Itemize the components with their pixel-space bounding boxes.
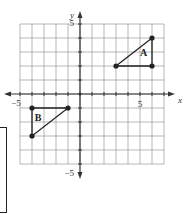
y-tick-label: −5 (64, 168, 74, 178)
vertex-point (65, 105, 70, 110)
vertex-point (149, 63, 154, 68)
x-axis-arrow-left-icon (4, 92, 11, 97)
partial-frame-border (0, 127, 7, 213)
axes (4, 11, 175, 179)
triangle-label-b: B (35, 112, 42, 123)
y-tick-label: 5 (70, 18, 75, 28)
y-axis-arrow-icon (78, 11, 83, 18)
x-tick-label: −5 (11, 98, 21, 108)
vertex-point (29, 133, 34, 138)
vertex-point (149, 35, 154, 40)
vertex-point (113, 63, 118, 68)
x-axis-label: x (177, 95, 182, 105)
vertex-point (29, 105, 34, 110)
x-tick-label: 5 (138, 99, 143, 109)
triangle-label-a: A (140, 47, 148, 58)
x-axis-arrow-icon (168, 92, 175, 97)
coordinate-plane: AB xy−555−5 (0, 0, 186, 214)
y-axis-arrow-down-icon (78, 172, 83, 179)
